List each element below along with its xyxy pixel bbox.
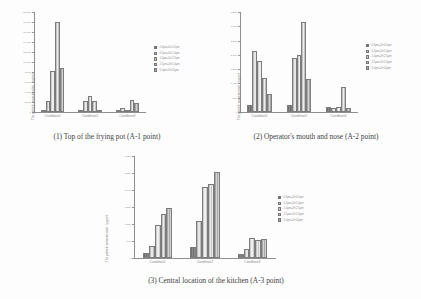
x-axis-line: [240, 112, 358, 113]
legend-swatch-icon: [278, 196, 281, 199]
panel-caption-3: (3) Central location of the kitchen (A-3…: [100, 276, 332, 285]
legend-swatch-icon: [154, 68, 157, 71]
bar-group: [229, 156, 276, 258]
bar: [60, 68, 65, 113]
bar-group: [109, 12, 146, 112]
legend-label: 0.5μm≤D<1.0μm: [371, 50, 391, 53]
legend-swatch-icon: [154, 63, 157, 66]
bar: [166, 208, 172, 258]
legend-label: 2.5μm≤D<5.0μm: [283, 213, 303, 216]
y-axis-tick-label: 1,000: [215, 82, 237, 85]
x-axis-tick-label: Condition1: [240, 114, 279, 118]
legend-item: 0.3μm≤D<0.5μm: [278, 196, 303, 199]
x-axis-tick-label: Condition3: [229, 260, 276, 264]
legend-item: 2.5μm≤D<5.0μm: [366, 61, 391, 64]
x-axis-line: [134, 258, 276, 259]
y-axis-tick-label: 2,000: [215, 53, 237, 56]
bar-group: [134, 156, 181, 258]
x-axis-tick-label: Condition3: [319, 114, 358, 118]
bar: [306, 79, 311, 112]
legend-swatch-icon: [154, 57, 157, 60]
legend-item: 1.0μm≤D<2.5μm: [278, 207, 303, 210]
legend-item: 0.3μm≤D<0.5μm: [366, 44, 391, 47]
bar: [261, 239, 267, 258]
legend-item: 2.5μm≤D<5.0μm: [154, 63, 179, 66]
bar-group: [181, 156, 228, 258]
y-axis-tick-label: 10,000: [5, 61, 31, 64]
legend-swatch-icon: [366, 55, 369, 58]
plot-area-3: 05001,0001,5002,0002,5003,000Condition1C…: [100, 152, 332, 274]
legend-item: 0.5μm≤D<1.0μm: [154, 52, 179, 55]
y-axis-tick-label: 0: [215, 111, 237, 114]
legend-label: 1.0μm≤D<2.5μm: [371, 55, 391, 58]
chart-panel-2: 05001,0001,5002,0002,5003,0003,500Condit…: [214, 8, 418, 146]
y-axis-tick-label: 3,000: [101, 155, 131, 158]
legend-swatch-icon: [366, 61, 369, 64]
legend-item: 5.0μm≤D<10μm: [154, 68, 179, 71]
y-axis-tick-label: 14,000: [5, 41, 31, 44]
bar-group: [240, 12, 279, 112]
y-axis-title-3: The particle concentration（μg/m³）: [104, 213, 109, 262]
legend-item: 0.5μm≤D<1.0μm: [366, 50, 391, 53]
y-axis-tick-label: 2,500: [215, 39, 237, 42]
chart-legend: 0.3μm≤D<0.5μm0.5μm≤D<1.0μm1.0μm≤D<2.5μm2…: [154, 46, 179, 74]
legend-swatch-icon: [278, 218, 281, 221]
legend-label: 5.0μm≤D<10μm: [283, 219, 302, 222]
legend-label: 0.3μm≤D<0.5μm: [283, 196, 303, 199]
y-axis-tick-label: 18,000: [5, 21, 31, 24]
legend-item: 5.0μm≤D<10μm: [278, 218, 303, 221]
legend-swatch-icon: [366, 66, 369, 69]
bar-group: [34, 12, 71, 112]
x-axis-tick-label: Condition2: [279, 114, 318, 118]
bar: [214, 172, 220, 258]
y-axis-tick-label: 4,000: [5, 91, 31, 94]
legend-swatch-icon: [366, 50, 369, 53]
chart-panel-3: 05001,0001,5002,0002,5003,000Condition1C…: [100, 152, 332, 292]
legend-swatch-icon: [278, 207, 281, 210]
y-axis-tick-label: 16,000: [5, 31, 31, 34]
y-axis-tick-label: 3,000: [215, 25, 237, 28]
legend-item: 5.0μm≤D<10μm: [366, 66, 391, 69]
legend-label: 0.5μm≤D<1.0μm: [159, 52, 179, 55]
legend-label: 0.5μm≤D<1.0μm: [283, 202, 303, 205]
legend-item: 0.5μm≤D<1.0μm: [278, 202, 303, 205]
legend-swatch-icon: [278, 202, 281, 205]
legend-label: 5.0μm≤D<10μm: [371, 67, 390, 70]
legend-swatch-icon: [366, 44, 369, 47]
x-axis-tick-label: Condition2: [181, 260, 228, 264]
chart-legend: 0.3μm≤D<0.5μm0.5μm≤D<1.0μm1.0μm≤D<2.5μm2…: [278, 196, 303, 224]
legend-label: 0.3μm≤D<0.5μm: [159, 46, 179, 49]
chart-legend: 0.3μm≤D<0.5μm0.5μm≤D<1.0μm1.0μm≤D<2.5μm2…: [366, 44, 391, 72]
bar: [346, 108, 351, 112]
legend-label: 1.0μm≤D<2.5μm: [159, 57, 179, 60]
x-axis-tick-label: Condition1: [134, 260, 181, 264]
bar: [134, 103, 139, 112]
legend-label: 0.3μm≤D<0.5μm: [371, 44, 391, 47]
chart-panel-1: 02,0004,0006,0008,00010,00012,00014,0001…: [4, 8, 210, 146]
legend-item: 2.5μm≤D<5.0μm: [278, 213, 303, 216]
bar: [267, 94, 272, 112]
y-axis-tick-label: 1,500: [101, 206, 131, 209]
figure-page: 02,0004,0006,0008,00010,00012,00014,0001…: [0, 0, 421, 299]
plot-area-2: 05001,0001,5002,0002,5003,0003,500Condit…: [214, 8, 418, 130]
legend-item: 1.0μm≤D<2.5μm: [154, 57, 179, 60]
y-axis-tick-label: 500: [215, 96, 237, 99]
bar-group: [279, 12, 318, 112]
y-axis-tick-label: 6,000: [5, 81, 31, 84]
bar: [97, 110, 102, 112]
y-axis-tick-label: 2,500: [101, 172, 131, 175]
legend-item: 1.0μm≤D<2.5μm: [366, 55, 391, 58]
legend-label: 5.0μm≤D<10μm: [159, 69, 178, 72]
y-axis-title-2: The particle concentration（μg/m³）: [236, 71, 241, 120]
y-axis-tick-label: 2,000: [101, 189, 131, 192]
x-axis-tick-label: Condition3: [109, 114, 146, 118]
y-axis-tick-label: 8,000: [5, 71, 31, 74]
y-axis-tick-label: 20,000: [5, 11, 31, 14]
x-axis-tick-label: Condition2: [71, 114, 108, 118]
y-axis-title-1: The particle concentration（μg/m³）: [30, 71, 35, 120]
legend-swatch-icon: [154, 52, 157, 55]
x-axis-tick-label: Condition1: [34, 114, 71, 118]
y-axis-tick-label: 0: [5, 111, 31, 114]
panel-caption-2: (2) Operator's mouth and nose (A-2 point…: [214, 132, 418, 141]
y-axis-tick-label: 2,000: [5, 101, 31, 104]
